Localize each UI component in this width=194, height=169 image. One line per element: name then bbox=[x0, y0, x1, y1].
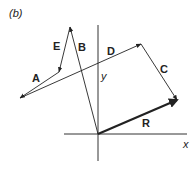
vector-r-arrow bbox=[98, 100, 177, 134]
vector-e-label: E bbox=[53, 40, 60, 52]
y-axis-label: y bbox=[100, 70, 108, 82]
vector-d-label: D bbox=[107, 45, 115, 57]
vector-e-arrow bbox=[59, 27, 70, 72]
x-axis-label: x bbox=[182, 138, 189, 150]
vector-c-label: C bbox=[160, 63, 168, 75]
panel-label: (b) bbox=[9, 7, 23, 19]
vector-diagram: (b) y x BEADCR bbox=[0, 0, 194, 169]
vector-b-label: B bbox=[78, 41, 86, 53]
vector-c-arrow bbox=[141, 44, 177, 100]
vector-labels-group: BEADCR bbox=[32, 40, 168, 129]
vector-r-label: R bbox=[142, 117, 150, 129]
vector-a-label: A bbox=[32, 72, 40, 84]
